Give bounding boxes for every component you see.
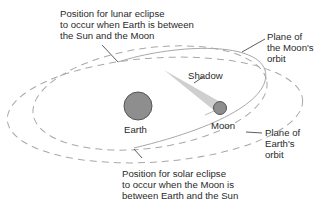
earth-icon (124, 92, 152, 120)
leader-earth-orbit (246, 132, 262, 133)
moon-icon (214, 102, 227, 115)
leader-solar-eclipse (134, 149, 142, 158)
label-lunar-eclipse: Position for lunar eclipse to occur when… (60, 8, 194, 42)
label-solar-eclipse: Position for solar eclipse to occur when… (122, 168, 238, 202)
leader-moon-arrow (205, 111, 214, 115)
earth-orbit-plane (4, 48, 307, 172)
label-earth: Earth (124, 124, 147, 135)
label-moon-orbit-plane: Plane of the Moon's orbit (267, 31, 314, 65)
label-shadow: Shadow (188, 70, 223, 81)
label-earth-orbit-plane: Plane of Earth's orbit (265, 127, 300, 161)
leader-moon-orbit (242, 39, 265, 52)
label-moon: Moon (211, 120, 235, 131)
